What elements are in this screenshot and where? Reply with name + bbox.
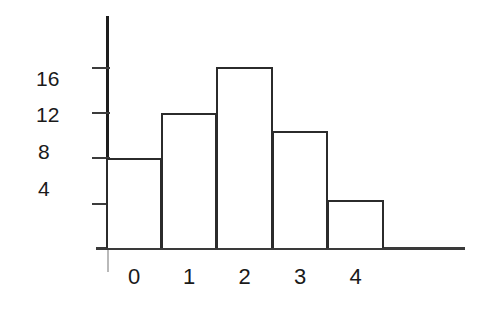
x-tick-label-0: 0 <box>106 266 162 288</box>
bar-3 <box>272 131 328 248</box>
x-tick-label-3: 3 <box>272 266 328 288</box>
y-tick-label-12: 12 <box>36 104 59 125</box>
y-tick-label-16: 16 <box>36 68 59 89</box>
y-tick-12 <box>92 112 110 114</box>
bar-2 <box>216 67 273 248</box>
x-tick-label-2: 2 <box>216 266 273 288</box>
x-tick-label-4: 4 <box>327 266 384 288</box>
histogram-chart: 16 12 8 4 0 1 2 3 4 <box>0 0 491 309</box>
bar-1 <box>161 113 217 248</box>
bar-0 <box>106 158 162 248</box>
bar-4 <box>327 200 384 248</box>
y-tick-label-4: 4 <box>38 178 50 199</box>
x-tick-label-1: 1 <box>161 266 217 288</box>
y-tick-label-8: 8 <box>38 141 50 162</box>
y-tick-16 <box>92 67 110 69</box>
